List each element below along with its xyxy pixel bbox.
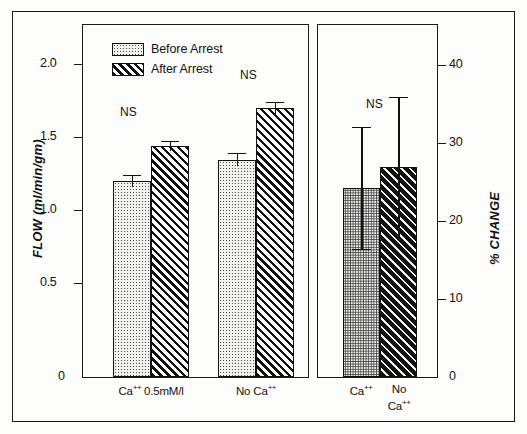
errorbar-stem-after-arrest-no-ca xyxy=(275,102,277,114)
right-tick-label-30: 30 xyxy=(449,135,462,149)
errorbar-cap-upper-percent-change-ca xyxy=(352,127,371,129)
significance-label-left-group2: NS xyxy=(240,68,257,82)
legend-label-after-arrest: After Arrest xyxy=(151,62,212,76)
bar-after-arrest-ca-0-5mm xyxy=(151,146,189,377)
category-label-ca-0-5mm: Ca++ 0.5mM/l xyxy=(101,383,201,397)
errorbar-cap-after-arrest-no-ca xyxy=(266,102,284,104)
left-tick-label-2-0: 2.0 xyxy=(40,56,56,70)
category-label-right-ca-text: Ca++ xyxy=(350,385,373,397)
errorbar-stem-percent-change-no-ca xyxy=(398,97,400,240)
right-tick-label-0: 0 xyxy=(449,369,456,383)
legend-swatch-hatch-icon xyxy=(112,63,144,76)
significance-label-left-group1: NS xyxy=(120,105,137,119)
category-label-no-ca: No Ca++ xyxy=(206,383,306,397)
errorbar-cap-before-arrest-no-ca xyxy=(228,153,246,155)
right-axis-title: % CHANGE xyxy=(487,192,502,265)
category-label-ca-0-5mm-text: Ca++ 0.5mM/l xyxy=(118,385,183,397)
left-tick-label-0: 0 xyxy=(58,369,65,383)
left-tick-1-0 xyxy=(74,210,82,211)
left-tick-label-0-5: 0.5 xyxy=(40,275,56,289)
bar-after-arrest-no-ca xyxy=(256,108,294,377)
legend-item-before-arrest: Before Arrest xyxy=(112,42,223,56)
right-tick-30 xyxy=(438,143,446,144)
left-axis-title: FLOW (ml/min/gm) xyxy=(30,139,45,258)
right-tick-40 xyxy=(438,65,446,66)
errorbar-cap-after-arrest-ca-0-5mm xyxy=(161,141,179,143)
right-tick-10 xyxy=(438,299,446,300)
right-tick-label-40: 40 xyxy=(449,57,462,71)
significance-label-right: NS xyxy=(366,97,383,111)
category-label-right-no-ca: No Ca++ xyxy=(378,383,420,413)
right-tick-label-20: 20 xyxy=(449,213,462,227)
right-tick-20 xyxy=(438,221,446,222)
bar-before-arrest-ca-0-5mm xyxy=(113,181,151,377)
category-label-right-no-ca-line1: No xyxy=(392,383,406,395)
errorbar-stem-percent-change-ca xyxy=(361,127,363,249)
right-tick-label-10: 10 xyxy=(449,291,462,305)
errorbar-cap-upper-percent-change-no-ca xyxy=(389,97,408,99)
left-tick-1-5 xyxy=(74,137,82,138)
legend-swatch-dotted-icon xyxy=(112,43,144,56)
errorbar-cap-before-arrest-ca-0-5mm xyxy=(123,175,141,177)
bar-before-arrest-no-ca xyxy=(218,160,256,377)
left-tick-0-5 xyxy=(74,283,82,284)
errorbar-cap-lower-percent-change-ca xyxy=(352,249,371,251)
figure-container: 2.0 1.5 1.0 0.5 0 FLOW (ml/min/gm) Befor… xyxy=(0,0,527,434)
errorbar-stem-before-arrest-ca-0-5mm xyxy=(132,175,134,187)
errorbar-stem-after-arrest-ca-0-5mm xyxy=(170,141,172,151)
legend-item-after-arrest: After Arrest xyxy=(112,62,212,76)
category-label-no-ca-text: No Ca++ xyxy=(236,385,276,397)
left-tick-2-0 xyxy=(74,64,82,65)
category-label-right-no-ca-line2: Ca++ xyxy=(388,400,411,412)
errorbar-stem-before-arrest-no-ca xyxy=(237,153,239,166)
legend-label-before-arrest: Before Arrest xyxy=(151,42,223,56)
